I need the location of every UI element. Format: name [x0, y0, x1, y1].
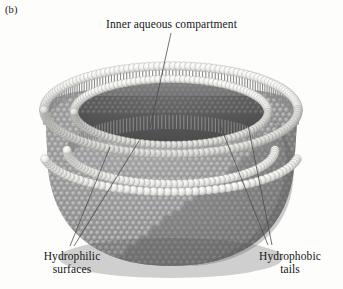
- inner-aqueous-compartment-label: Inner aqueous compartment: [0, 18, 343, 31]
- hydrophilic-surfaces-label: Hydrophilic surfaces: [8, 250, 136, 276]
- figure-canvas: (b) Inner aqueous compartment Hydrophili…: [0, 0, 343, 289]
- vesicle-illustration: [0, 0, 343, 289]
- hydrophilic-line-2: surfaces: [8, 263, 136, 276]
- panel-label: (b): [5, 4, 18, 16]
- hydrophobic-line-2: tails: [238, 263, 342, 276]
- hydrophobic-line-1: Hydrophobic: [238, 250, 342, 263]
- hydrophobic-tails-label: Hydrophobic tails: [238, 250, 342, 276]
- hydrophilic-line-1: Hydrophilic: [8, 250, 136, 263]
